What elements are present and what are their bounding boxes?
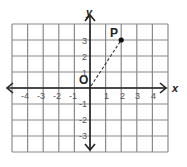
coordinate-plane: y x O P -4 -3 -2 -1 1 2 3 4 3 2 1 -1 -2 …	[0, 0, 187, 167]
x-tick-4: 4	[151, 92, 156, 101]
x-tick--4: -4	[21, 92, 29, 101]
x-axis-label: x	[172, 83, 178, 94]
x-tick--3: -3	[37, 92, 45, 101]
y-tick-3: 3	[82, 37, 87, 46]
x-tick-3: 3	[135, 92, 140, 101]
grid-svg	[0, 0, 187, 167]
y-tick-2: 2	[82, 53, 87, 62]
y-axis-label: y	[86, 7, 92, 18]
y-tick-1: 1	[82, 69, 87, 78]
point-p-label: P	[110, 27, 118, 39]
point-p-dot	[119, 37, 124, 42]
x-tick--2: -2	[53, 92, 61, 101]
x-tick--1: -1	[69, 92, 77, 101]
y-tick--2: -2	[79, 116, 87, 125]
x-tick-2: 2	[120, 92, 125, 101]
x-tick-1: 1	[104, 92, 109, 101]
y-tick--3: -3	[79, 132, 87, 141]
y-tick--1: -1	[79, 100, 87, 109]
